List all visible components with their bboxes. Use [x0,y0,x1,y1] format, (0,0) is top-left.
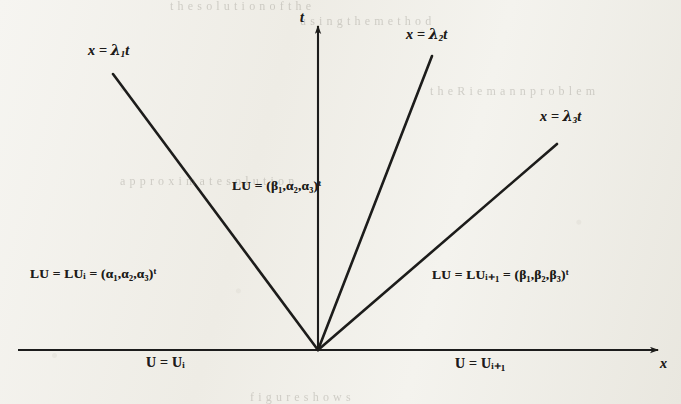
axis-state-label-right: U = Uᵢ₊₁ [455,355,505,372]
ray-label-lambda-1: x = λ1t [88,42,129,59]
ray-2-lead: x = [406,27,429,42]
ray-2-symbol: λ [429,26,439,42]
ghost-text-5: f i g u r e s h o w s [250,390,351,404]
axis-state-label-left: U = Uᵢ [146,355,185,371]
diagram-svg [0,0,681,404]
ray-label-lambda-2: x = λ2t [406,26,447,43]
characteristic-diagram: t h e s o l u t i o n o f t h e u s i n … [0,0,681,404]
ray-2-tail: t [443,27,447,42]
ray-1-tail: t [125,43,129,58]
x-axis-label: x [660,356,667,372]
ray-3-symbol: λ [563,108,573,124]
region-label-left: LU = LUᵢ = (α₁,α₂,α₃)ᵗ [30,266,157,282]
ray-3-tail: t [577,109,581,124]
ray-1-lead: x = [88,43,111,58]
region-label-right: LU = LUᵢ₊₁ = (β₁,β₂,β₃)ᵗ [432,266,569,283]
ghost-text-3: t h e R i e m a n n p r o b l e m [430,84,596,99]
ray-lambda-3 [318,144,557,350]
ghost-text-1: t h e s o l u t i o n o f t h e [170,0,312,14]
t-axis-label: t [300,10,304,26]
ray-lambda-1 [113,74,318,350]
ray-1-symbol: λ [111,42,121,58]
region-label-middle: LU = (β₁,α₂,α₃)ᵗ [232,178,321,194]
ray-label-lambda-3: x = λ3t [540,108,581,125]
ray-lambda-2 [318,56,432,350]
ray-3-lead: x = [540,109,563,124]
